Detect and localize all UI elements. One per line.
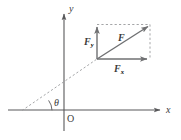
vector-resultant-label: F <box>117 32 125 43</box>
figure-container: y x O θ Fy F Fx <box>0 0 181 140</box>
vector-resultant-label-base: F <box>117 32 125 43</box>
vector-y-component-label-sub: y <box>90 41 94 48</box>
angle-arc <box>49 100 52 110</box>
angle-arc-group <box>49 100 52 110</box>
angle-theta-label: θ <box>54 97 59 108</box>
vector-y-component-label: Fy <box>83 36 94 48</box>
labels-group: y x O θ Fy F Fx <box>54 3 171 124</box>
vector-x-component-label-sub: x <box>120 68 125 75</box>
axes-group <box>8 14 160 131</box>
line-of-action-group <box>22 59 97 111</box>
line-of-action-dashed <box>22 59 97 111</box>
vector-x-component-label: Fx <box>113 63 125 75</box>
x-axis-label: x <box>165 104 171 115</box>
origin-label: O <box>67 113 74 124</box>
vector-diagram: y x O θ Fy F Fx <box>0 0 181 140</box>
y-axis-label: y <box>68 3 74 14</box>
